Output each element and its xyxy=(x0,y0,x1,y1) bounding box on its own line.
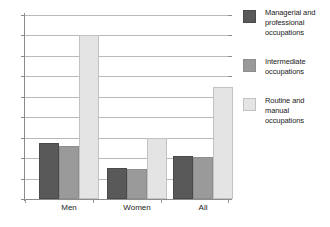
legend-label: Managerial andprofessionaloccupations xyxy=(265,8,330,38)
bar-groups xyxy=(25,15,228,199)
medium-gray-swatch xyxy=(243,59,256,72)
plot-region: 051015202530354045 MenWomenAll xyxy=(0,0,232,227)
bar-chart: 051015202530354045 MenWomenAll Manageria… xyxy=(0,0,330,227)
gridline xyxy=(25,199,228,200)
x-axis-tick xyxy=(25,199,26,203)
x-axis-tick xyxy=(161,199,162,203)
x-axis-tick xyxy=(93,199,94,203)
bar xyxy=(213,87,233,199)
bar-group xyxy=(107,15,167,199)
legend-label: Routine andmanualoccupations xyxy=(265,96,330,126)
bar xyxy=(173,156,193,199)
bar-group xyxy=(173,15,233,199)
chart-legend: Managerial andprofessionaloccupationsInt… xyxy=(243,0,330,227)
bar xyxy=(79,35,99,199)
x-axis-tick xyxy=(228,199,229,203)
x-axis-tick-label: All xyxy=(163,203,243,212)
bar xyxy=(193,157,213,199)
bar xyxy=(107,168,127,199)
bar xyxy=(127,169,147,199)
bar-group xyxy=(39,15,99,199)
dark-gray-swatch xyxy=(243,10,256,23)
bar xyxy=(59,146,79,199)
bar xyxy=(147,138,167,199)
legend-label: Intermediateoccupations xyxy=(265,57,330,77)
bar xyxy=(39,143,59,199)
light-gray-swatch xyxy=(243,98,256,111)
